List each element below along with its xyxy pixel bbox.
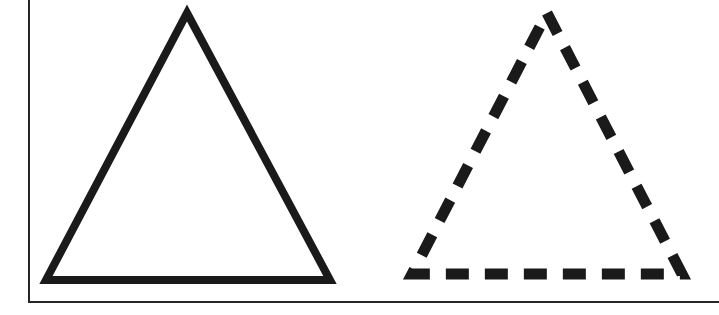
figure-canvas: Two triangles: solid outline and dashed … [0, 0, 719, 315]
figure-container: Two triangles: solid outline and dashed … [0, 0, 719, 315]
